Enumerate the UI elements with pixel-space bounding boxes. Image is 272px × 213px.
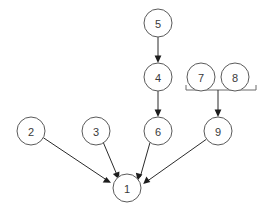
edge-layer — [43, 37, 256, 184]
node-5-label: 5 — [155, 18, 161, 30]
node-2[interactable]: 2 — [17, 117, 45, 145]
node-7-label: 7 — [198, 72, 204, 84]
node-4[interactable]: 4 — [144, 63, 172, 91]
edge-9-to-1 — [143, 139, 206, 184]
arrowhead-5-4 — [155, 56, 162, 64]
node-5[interactable]: 5 — [144, 9, 172, 37]
node-3-label: 3 — [93, 126, 99, 138]
diagram-canvas: 5 4 7 8 2 3 — [0, 0, 272, 213]
node-6[interactable]: 6 — [144, 117, 172, 145]
node-8[interactable]: 8 — [221, 63, 249, 91]
edge-line-6-1 — [140, 143, 150, 178]
node-9[interactable]: 9 — [204, 117, 232, 145]
arrowhead-4-6 — [155, 110, 162, 118]
node-6-label: 6 — [155, 126, 161, 138]
edge-4-to-6 — [155, 91, 162, 117]
edge-line-3-1 — [104, 143, 117, 175]
node-8-label: 8 — [232, 72, 238, 84]
node-1[interactable]: 1 — [113, 174, 141, 202]
arrowhead-bracket-9 — [215, 110, 222, 118]
node-9-label: 9 — [215, 126, 221, 138]
node-2-label: 2 — [28, 126, 34, 138]
node-3[interactable]: 3 — [82, 117, 110, 145]
node-layer: 5 4 7 8 2 3 — [17, 9, 249, 202]
node-1-label: 1 — [124, 183, 130, 195]
edge-line-9-1 — [148, 139, 206, 180]
node-4-label: 4 — [155, 72, 161, 84]
directed-graph: 5 4 7 8 2 3 — [0, 0, 272, 213]
edge-3-to-1 — [104, 143, 120, 180]
edge-6-to-1 — [136, 143, 150, 181]
edge-5-to-4 — [155, 37, 162, 63]
node-7[interactable]: 7 — [187, 63, 215, 91]
